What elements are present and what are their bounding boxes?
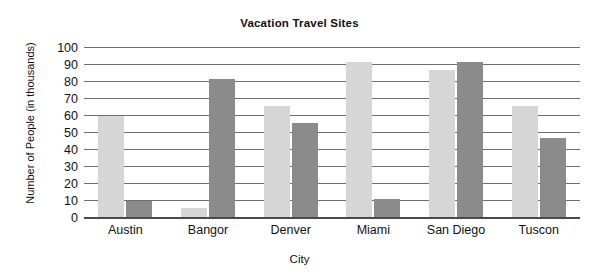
x-tick-label: Tuscon [518,223,559,237]
bar [512,106,538,218]
bar [457,62,483,218]
bar-group [332,48,415,218]
y-tick-label: 70 [32,93,78,106]
bar [346,62,372,218]
bar [374,199,400,218]
bar-group [249,48,332,218]
x-tick-label: Bangor [188,223,228,237]
y-tick-label: 100 [32,42,78,55]
plot-area [84,48,580,218]
x-axis-line [84,217,580,219]
x-axis-tick-labels: AustinBangorDenverMiamiSan DiegoTuscon [84,223,580,245]
chart-title: Vacation Travel Sites [0,17,599,29]
bar [209,79,235,218]
bar-chart: Vacation Travel Sites Number of People (… [0,0,599,278]
x-axis-title: City [0,253,599,265]
bar-group [84,48,167,218]
bar [126,201,152,218]
y-tick-label: 0 [32,212,78,225]
x-tick-label: Miami [357,223,390,237]
x-tick-label: Austin [108,223,143,237]
bar-group [415,48,498,218]
y-tick-label: 80 [32,76,78,89]
y-tick-label: 60 [32,110,78,123]
bar-group [167,48,250,218]
bar-group [497,48,580,218]
x-tick-label: San Diego [427,223,485,237]
y-tick-label: 90 [32,59,78,72]
bar [98,116,124,218]
bar [264,106,290,218]
y-tick-label: 50 [32,127,78,140]
y-tick-label: 10 [32,195,78,208]
y-tick-label: 30 [32,161,78,174]
bar [292,123,318,218]
bar [429,70,455,218]
y-tick-label: 20 [32,178,78,191]
y-tick-label: 40 [32,144,78,157]
bar [540,138,566,218]
x-tick-label: Denver [271,223,311,237]
